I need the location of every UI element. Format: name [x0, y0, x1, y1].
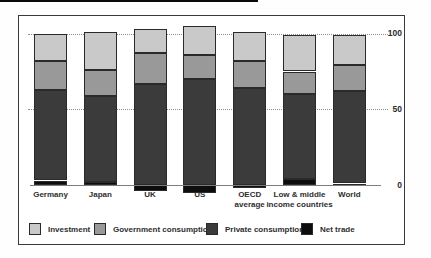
bar-segment-private-consumption-uk — [134, 84, 167, 185]
bar-segment-private-consumption-oecd-average — [233, 88, 266, 185]
bar-segment-private-consumption-low-middle-income-countries — [283, 94, 316, 179]
bar-segment-government-consumption-world — [333, 65, 366, 91]
legend-label-government-consumption: Government consumption — [113, 225, 213, 234]
bar-segment-private-consumption-germany — [34, 90, 67, 181]
legend-swatch-private-consumption — [206, 223, 218, 235]
bar-segment-private-consumption-us — [183, 79, 216, 185]
legend-swatch-net-trade — [301, 223, 313, 235]
legend-item-private-consumption: Private consumption — [206, 222, 304, 236]
legend-swatch-government-consumption — [94, 223, 106, 235]
bar-segment-government-consumption-uk — [134, 53, 167, 83]
legend-label-private-consumption: Private consumption — [225, 225, 304, 234]
bar-segment-government-consumption-us — [183, 55, 216, 79]
bar-segment-government-consumption-germany — [34, 61, 67, 90]
bar-segment-government-consumption-low-middle-income-countries — [283, 72, 316, 95]
legend-item-government-consumption: Government consumption — [94, 222, 213, 236]
x-axis-line — [30, 185, 381, 187]
bar-segment-private-consumption-world — [333, 91, 366, 183]
x-axis-label-line: income countries — [258, 200, 342, 210]
bar-segment-government-consumption-japan — [84, 70, 117, 96]
y-axis-tick-50: 50 — [372, 104, 402, 114]
legend-label-net-trade: Net trade — [320, 225, 355, 234]
bar-segment-government-consumption-oecd-average — [233, 61, 266, 88]
bar-segment-investment-us — [183, 26, 216, 55]
bar-segment-investment-low-middle-income-countries — [283, 35, 316, 71]
x-axis-label-line: World — [307, 190, 391, 200]
legend-label-investment: Investment — [48, 225, 90, 234]
legend-swatch-investment — [29, 223, 41, 235]
bar-segment-investment-japan — [84, 32, 117, 70]
page-top-rule — [0, 0, 258, 2]
bar-segment-investment-germany — [34, 34, 67, 61]
figure: 050100GermanyJapanUKUSOECDaverageLow & m… — [0, 0, 431, 258]
bar-segment-investment-oecd-average — [233, 32, 266, 61]
bar-segment-private-consumption-japan — [84, 96, 117, 182]
legend-item-net-trade: Net trade — [301, 222, 355, 236]
y-axis-tick-100: 100 — [372, 28, 402, 38]
bar-segment-investment-uk — [134, 29, 167, 53]
legend-item-investment: Investment — [29, 222, 90, 236]
x-axis-label-world: World — [307, 190, 391, 200]
bar-segment-investment-world — [333, 35, 366, 65]
chart-frame: 050100GermanyJapanUKUSOECDaverageLow & m… — [18, 15, 405, 245]
